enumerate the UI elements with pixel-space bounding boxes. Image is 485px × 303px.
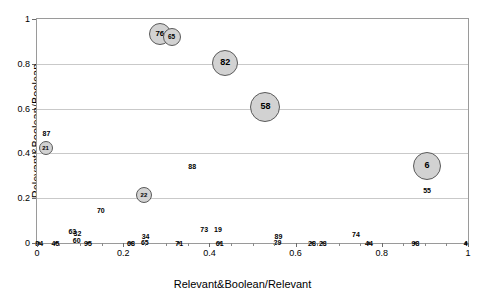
x-minor-tick-mark — [339, 243, 340, 246]
gridline — [37, 64, 468, 65]
y-axis-title-container: Relevant&Boolean/Boolean — [8, 18, 22, 244]
x-minor-tick-mark — [360, 243, 361, 246]
bubble-label: 65 — [168, 34, 175, 40]
bubble-marker: 82 — [212, 50, 238, 76]
x-tick-label: 1 — [453, 248, 483, 258]
x-minor-tick-mark — [403, 243, 404, 246]
bubble-label: 22 — [141, 192, 148, 198]
point-label: 88 — [188, 162, 196, 169]
x-minor-tick-mark — [253, 243, 254, 246]
x-minor-tick-mark — [274, 243, 275, 246]
x-tick-mark — [37, 243, 38, 247]
bubble-marker: 65 — [163, 28, 181, 46]
x-minor-tick-mark — [317, 243, 318, 246]
point-label: 44 — [365, 240, 373, 247]
x-minor-tick-mark — [425, 243, 426, 246]
point-label: 71 — [175, 240, 183, 247]
x-minor-tick-mark — [145, 243, 146, 246]
bubble-label: 58 — [260, 102, 270, 111]
point-label: 68 — [127, 240, 135, 247]
plot-area: 7665825862122 87885570731974633260892934… — [36, 18, 469, 244]
x-tick-label: 0.4 — [194, 248, 224, 258]
point-label: 61 — [216, 240, 224, 247]
x-tick-mark — [468, 243, 469, 247]
x-axis-title: Relevant&Boolean/Relevant — [0, 278, 485, 290]
x-minor-tick-mark — [80, 243, 81, 246]
x-tick-label: 0.8 — [367, 248, 397, 258]
x-tick-mark — [382, 243, 383, 247]
bubble-label: 6 — [425, 161, 430, 170]
point-label: 19 — [214, 226, 222, 233]
gridline — [37, 153, 468, 154]
x-minor-tick-mark — [59, 243, 60, 246]
point-label: 28 — [308, 240, 316, 247]
point-label: 23 — [319, 240, 327, 247]
bubble-label: 21 — [42, 145, 49, 151]
point-label: 74 — [352, 230, 360, 237]
x-minor-tick-mark — [102, 243, 103, 246]
chart-root: 00.20.40.60.81 Relevant&Boolean/Boolean … — [0, 0, 485, 303]
x-tick-label: 0.6 — [281, 248, 311, 258]
x-minor-tick-mark — [446, 243, 447, 246]
x-tick-mark — [123, 243, 124, 247]
point-label: 55 — [423, 187, 431, 194]
x-tick-mark — [296, 243, 297, 247]
point-label: 87 — [43, 130, 51, 137]
x-minor-tick-mark — [231, 243, 232, 246]
x-minor-tick-mark — [188, 243, 189, 246]
point-label: 73 — [200, 226, 208, 233]
bubble-marker: 6 — [413, 152, 441, 180]
x-tick-mark — [209, 243, 210, 247]
bubble-marker: 22 — [136, 187, 152, 203]
bubble-marker: 58 — [250, 92, 280, 122]
x-tick-label: 0.2 — [108, 248, 138, 258]
point-label: 98 — [411, 240, 419, 247]
gridline — [37, 198, 468, 199]
point-label: 70 — [97, 206, 105, 213]
bubble-marker: 21 — [39, 141, 53, 155]
bubble-label: 82 — [220, 58, 230, 67]
point-label: 95 — [84, 240, 92, 247]
x-tick-label: 0 — [22, 248, 52, 258]
x-minor-tick-mark — [166, 243, 167, 246]
